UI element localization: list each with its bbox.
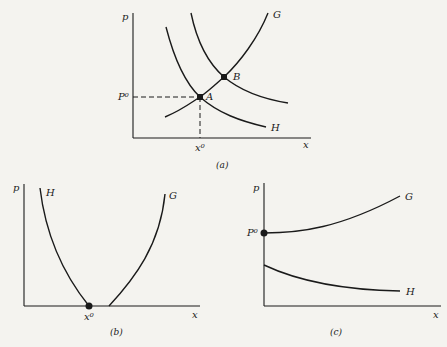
panel-a-curve-h	[166, 27, 266, 127]
panel-c-curve-g-label: G	[405, 191, 413, 202]
panel-a-caption: (a)	[216, 160, 229, 170]
panel-b-x-label: x	[192, 309, 198, 320]
figure: p x G H A B P⁰ x⁰ (a) p x H G x⁰	[0, 0, 447, 347]
panel-b-x0-label: x⁰	[84, 311, 94, 322]
panel-c: p x G H P⁰ (c)	[246, 182, 441, 337]
panel-a-curve-h-label: H	[270, 122, 280, 133]
panel-b-curve-h	[40, 188, 89, 306]
panel-b-caption: (b)	[110, 327, 123, 337]
panel-a-curve-h-shifted	[191, 13, 288, 103]
panel-c-curve-h-label: H	[405, 286, 415, 297]
panel-b-curve-g-label: G	[169, 190, 177, 201]
panel-a-curve-g	[165, 13, 268, 117]
panel-c-p0-label: P⁰	[246, 227, 258, 238]
panel-b: p x H G x⁰ (b)	[13, 182, 200, 337]
panel-a-curve-g-label: G	[273, 9, 281, 20]
panel-a-point-b	[221, 74, 227, 80]
panel-a-x0-label: x⁰	[195, 142, 205, 153]
panel-a-x-label: x	[303, 139, 309, 150]
panel-c-point-p0	[261, 230, 268, 237]
panel-a-point-a	[197, 94, 203, 100]
panel-a-point-b-label: B	[232, 71, 240, 82]
panel-a-y-label: p	[122, 11, 129, 22]
panel-c-x-label: x	[433, 309, 439, 320]
panel-a-point-a-label: A	[205, 91, 213, 102]
panel-c-curve-h	[264, 265, 400, 291]
panel-a: p x G H A B P⁰ x⁰ (a)	[117, 9, 311, 170]
panel-a-p0-label: P⁰	[117, 91, 129, 102]
panel-b-point-x0	[86, 303, 93, 310]
panel-b-y-label: p	[13, 182, 20, 193]
panel-b-curve-g	[109, 194, 165, 306]
panel-b-curve-h-label: H	[45, 187, 55, 198]
panel-c-y-label: p	[253, 182, 260, 193]
panel-c-caption: (c)	[330, 327, 343, 337]
panel-c-curve-g	[264, 196, 400, 233]
